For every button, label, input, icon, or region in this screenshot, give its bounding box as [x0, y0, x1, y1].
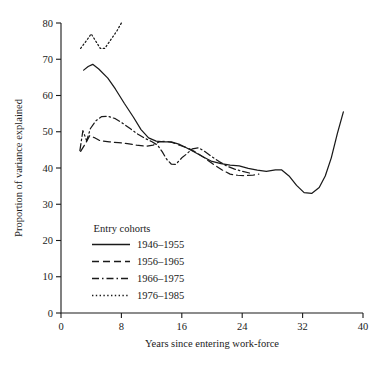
y-tick-label: 10: [43, 271, 54, 282]
y-axis-title: Proportion of variance explained: [13, 98, 24, 237]
legend-title: Entry cohorts: [94, 223, 151, 234]
legend-label-3: 1966–1975: [137, 273, 184, 284]
legend-label-4: 1976–1985: [137, 290, 184, 301]
series-line-2: [81, 136, 259, 176]
x-tick-label: 0: [58, 321, 63, 332]
line-chart: 010203040506070800816243240 Entry cohort…: [0, 0, 389, 367]
y-tick-label: 80: [43, 18, 54, 29]
y-tick-label: 0: [48, 308, 53, 319]
chart-legend: Entry cohorts1946–19551956–19651966–1975…: [92, 223, 184, 301]
x-tick-label: 8: [119, 321, 124, 332]
x-axis-title: Years since entering work-force: [145, 338, 279, 349]
chart-figure: 010203040506070800816243240 Entry cohort…: [0, 0, 389, 367]
series-lines: [80, 23, 343, 193]
y-tick-label: 40: [43, 163, 54, 174]
x-tick-label: 24: [237, 321, 248, 332]
x-tick-label: 16: [177, 321, 188, 332]
y-tick-label: 60: [43, 90, 54, 101]
series-line-4: [81, 23, 122, 48]
legend-label-1: 1946–1955: [137, 239, 184, 250]
legend-label-2: 1956–1965: [137, 256, 184, 267]
x-tick-label: 40: [358, 321, 369, 332]
series-line-1: [84, 64, 344, 193]
y-tick-label: 20: [43, 235, 54, 246]
axis-frame: [61, 23, 363, 313]
y-tick-label: 30: [43, 199, 54, 210]
y-tick-label: 70: [43, 54, 54, 65]
x-tick-label: 32: [297, 321, 308, 332]
y-tick-label: 50: [43, 126, 54, 137]
